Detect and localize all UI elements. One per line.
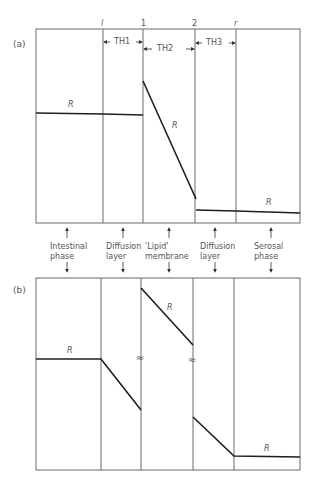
- phase-lipid-membrane: 'Lipid'membrane: [145, 242, 189, 262]
- panel-b-label: (b): [13, 285, 26, 295]
- equilibrium-symbol-left: ≈: [136, 353, 144, 363]
- boundary-label-1: 1: [141, 19, 146, 29]
- th1-label: TH1: [114, 37, 130, 47]
- equilibrium-symbol-right: ≈: [188, 355, 196, 365]
- concentration-line-b-left: [36, 359, 141, 410]
- th3-label: TH3: [206, 38, 222, 48]
- phase-intestinal: Intestinalphase: [50, 242, 87, 262]
- phase-diffusion-right: Diffusionlayer: [200, 242, 235, 262]
- panel-a-label: (a): [13, 39, 26, 49]
- boundary-label-r: r: [234, 19, 237, 29]
- concentration-line-serosal: [196, 210, 300, 213]
- curve-label-b2: R: [167, 303, 173, 313]
- concentration-line-intestinal: [36, 113, 143, 115]
- phase-diffusion-left: Diffusionlayer: [106, 242, 141, 262]
- concentration-line-membrane: [143, 81, 196, 199]
- boundary-label-2: 2: [192, 19, 197, 29]
- panel-a: [36, 29, 300, 223]
- curve-label-b1: R: [67, 346, 73, 356]
- th2-label: TH2: [157, 44, 173, 54]
- concentration-line-b-membrane: [141, 288, 193, 345]
- curve-label-a3: R: [266, 198, 272, 208]
- concentration-line-b-right: [193, 417, 300, 457]
- phase-serosal: Serosalphase: [254, 242, 283, 262]
- curve-label-a2: R: [172, 121, 178, 131]
- boundary-label-l: l: [101, 19, 103, 29]
- curve-label-a1: R: [68, 100, 74, 110]
- curve-label-b3: R: [264, 444, 270, 454]
- panel-a-frame: [36, 29, 300, 223]
